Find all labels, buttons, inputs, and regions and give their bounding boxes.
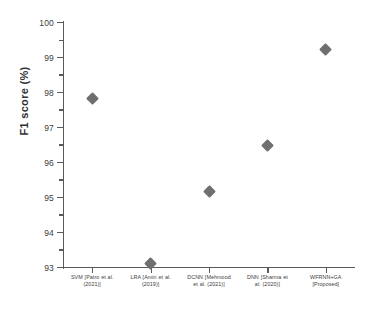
y-tick-100: 100 — [57, 22, 63, 23]
y-tick-95: 95 — [57, 197, 63, 198]
y-minor-tick — [59, 109, 63, 110]
y-axis-title: F1 score (%) — [18, 41, 30, 161]
label-line-1: WFRNN+GA — [292, 274, 360, 281]
x-tick-3 — [267, 268, 268, 273]
y-minor-tick — [59, 144, 63, 145]
y-minor-tick — [59, 214, 63, 215]
y-axis-line — [63, 21, 64, 269]
y-tick-label: 97 — [44, 123, 54, 132]
y-tick-98: 98 — [57, 92, 63, 93]
y-minor-tick — [59, 179, 63, 180]
y-tick-99: 99 — [57, 57, 63, 58]
data-point-marker — [203, 185, 216, 198]
x-tick-2 — [209, 268, 210, 273]
x-category-label-4: WFRNN+GA[Proposed] — [292, 274, 360, 289]
y-tick-96: 96 — [57, 162, 63, 163]
y-tick-label: 99 — [44, 53, 54, 62]
y-tick-label: 100 — [39, 18, 54, 27]
y-minor-tick — [59, 249, 63, 250]
y-tick-label: 96 — [44, 158, 54, 167]
y-tick-label: 98 — [44, 88, 54, 97]
y-minor-tick — [59, 74, 63, 75]
label-line-2: [Proposed] — [292, 281, 360, 288]
y-tick-label: 95 — [44, 193, 54, 202]
data-point-marker — [319, 44, 332, 57]
x-tick-0 — [92, 268, 93, 273]
data-point-marker — [261, 139, 274, 152]
y-tick-label: 94 — [44, 228, 54, 237]
y-tick-94: 94 — [57, 232, 63, 233]
y-tick-97: 97 — [57, 127, 63, 128]
y-tick-93: 93 — [57, 267, 63, 268]
x-tick-4 — [326, 268, 327, 273]
data-point-marker — [86, 93, 99, 106]
y-minor-tick — [59, 40, 63, 41]
f1-score-scatter-chart: F1 score (%) 93949596979899100 SVM [Patr… — [0, 0, 375, 310]
y-tick-label: 93 — [44, 263, 54, 272]
